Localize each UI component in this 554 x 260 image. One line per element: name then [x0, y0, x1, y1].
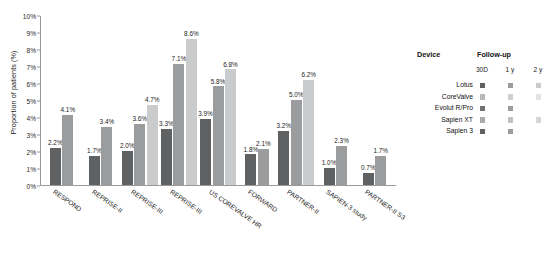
- bar-group: 3.9%5.8%6.8%: [200, 16, 236, 185]
- bar[interactable]: [245, 154, 256, 185]
- bar-value-label: 6.8%: [223, 62, 238, 68]
- bar[interactable]: [375, 156, 386, 185]
- bar-group: 1.7%3.4%: [89, 16, 113, 185]
- legend-swatch: [536, 94, 542, 100]
- bar-column: 3.4%: [101, 16, 112, 185]
- legend-device-name: Sapien 3: [405, 127, 473, 134]
- bar-value-label: 5.8%: [211, 79, 226, 85]
- bar[interactable]: [225, 69, 236, 185]
- bar[interactable]: [173, 64, 184, 185]
- legend-swatch: [480, 106, 486, 112]
- bar-group: 0.7%1.7%: [363, 16, 387, 185]
- bar-column: 2.2%: [50, 16, 61, 185]
- legend-followup-column-label: 30D: [472, 66, 492, 73]
- legend-row: Sapien XT: [405, 115, 554, 127]
- bar[interactable]: [50, 148, 61, 185]
- x-axis-tick-label: PARTNER-II S3: [364, 188, 407, 221]
- bar[interactable]: [291, 100, 302, 185]
- bar-column: 4.7%: [147, 16, 158, 185]
- bar-value-label: 3.3%: [159, 121, 174, 127]
- bar[interactable]: [303, 80, 314, 185]
- legend-followup-column-label: 2 y: [528, 66, 548, 73]
- bar-value-label: 2.2%: [48, 140, 63, 146]
- bar[interactable]: [62, 115, 73, 185]
- x-axis-tick-labels: RESPONDREPRISE-IIREPRISE-IIIREPRISE-IIIU…: [40, 188, 392, 260]
- x-axis-tick-label: REPRISE-III: [130, 188, 164, 215]
- chart-legend: Device Follow-up 30D1 y2 y LotusCoreValv…: [405, 50, 554, 138]
- legend-followup-column-label: 1 y: [500, 66, 520, 73]
- legend-row: Sapien 3: [405, 126, 554, 138]
- bar-column: 1.8%: [245, 16, 256, 185]
- bar-group: 1.8%2.1%: [245, 16, 269, 185]
- legend-row: Evolut R/Pro: [405, 103, 554, 115]
- bar-column: 5.8%: [213, 16, 224, 185]
- bar-value-label: 0.7%: [361, 165, 376, 171]
- bar-column: 5.0%: [291, 16, 302, 185]
- bar-group: 2.0%3.6%4.7%: [122, 16, 158, 185]
- legend-swatch: [480, 94, 486, 100]
- bar[interactable]: [161, 129, 172, 185]
- bar-column: 4.1%: [62, 16, 73, 185]
- bar-column: 1.0%: [324, 16, 335, 185]
- bar-value-label: 8.6%: [184, 31, 199, 37]
- bar[interactable]: [324, 168, 335, 185]
- bar-column: 7.1%: [173, 16, 184, 185]
- bar-column: 0.7%: [363, 16, 374, 185]
- bar-value-label: 2.3%: [334, 138, 349, 144]
- bar-group: 2.2%4.1%: [50, 16, 74, 185]
- bar-value-label: 1.7%: [87, 148, 102, 154]
- legend-device-name: Lotus: [405, 81, 473, 88]
- legend-swatch: [508, 106, 514, 112]
- bar-value-label: 7.1%: [172, 56, 187, 62]
- x-axis-tick-label: FORWARD: [247, 188, 279, 213]
- bar-column: 1.7%: [375, 16, 386, 185]
- legend-followup-header: Follow-up: [477, 50, 511, 59]
- legend-device-header: Device: [417, 50, 440, 59]
- bar-column: 3.9%: [200, 16, 211, 185]
- bar-column: 3.6%: [134, 16, 145, 185]
- bar-value-label: 1.7%: [373, 148, 388, 154]
- bar[interactable]: [122, 151, 133, 185]
- bar[interactable]: [336, 146, 347, 185]
- legend-swatch: [508, 129, 514, 135]
- bar[interactable]: [258, 149, 269, 185]
- bar[interactable]: [186, 39, 197, 185]
- bar[interactable]: [213, 86, 224, 185]
- bar[interactable]: [101, 127, 112, 185]
- x-axis-tick-label: SAPIEN-3 study: [325, 188, 369, 221]
- bar[interactable]: [278, 131, 289, 185]
- bar-value-label: 4.7%: [145, 97, 160, 103]
- bar-value-label: 2.1%: [256, 141, 271, 147]
- x-axis-tick-label: REPRISE-III: [169, 188, 203, 215]
- bar[interactable]: [89, 156, 100, 185]
- legend-rows: LotusCoreValveEvolut R/ProSapien XTSapie…: [405, 80, 554, 138]
- bar-value-label: 1.0%: [322, 160, 337, 166]
- bar-group: 3.2%5.0%6.2%: [278, 16, 314, 185]
- bar[interactable]: [200, 119, 211, 185]
- legend-swatch: [536, 117, 542, 123]
- legend-device-name: Evolut R/Pro: [405, 104, 473, 111]
- x-axis-line: [40, 185, 396, 186]
- bar-column: 6.8%: [225, 16, 236, 185]
- legend-swatch: [480, 83, 486, 89]
- y-axis-title: Proportion of patients (%): [9, 23, 18, 163]
- bar-value-label: 4.1%: [61, 107, 76, 113]
- bar-value-label: 3.9%: [198, 111, 213, 117]
- bar[interactable]: [147, 105, 158, 185]
- legend-header-row: Device Follow-up: [405, 50, 554, 64]
- chart-page: Proportion of patients (%) 0%1%2%3%4%5%6…: [0, 0, 554, 260]
- legend-swatch: [508, 94, 514, 100]
- bar-group: 3.3%7.1%8.6%: [161, 16, 197, 185]
- bar-column: 3.3%: [161, 16, 172, 185]
- bar[interactable]: [363, 173, 374, 185]
- bar-column: 1.7%: [89, 16, 100, 185]
- bar-value-label: 2.0%: [120, 143, 135, 149]
- bar[interactable]: [134, 124, 145, 185]
- bar-column: 3.2%: [278, 16, 289, 185]
- legend-swatch: [536, 83, 542, 89]
- legend-swatch: [508, 117, 514, 123]
- plot-area: 0%1%2%3%4%5%6%7%8%9%10% 2.2%4.1%1.7%3.4%…: [40, 16, 392, 186]
- bar-value-label: 3.4%: [100, 119, 115, 125]
- legend-swatch: [508, 83, 514, 89]
- legend-row: CoreValve: [405, 92, 554, 104]
